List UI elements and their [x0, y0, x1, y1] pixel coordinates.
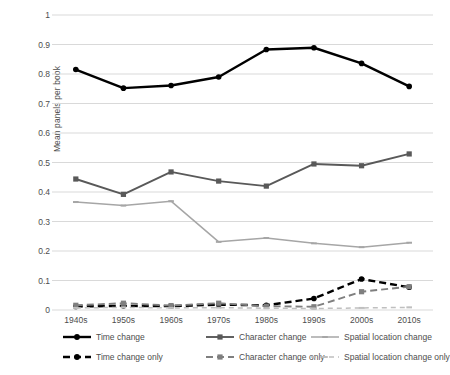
x-tick-label: 1970s: [195, 316, 243, 325]
legend-item[interactable]: Spatial location change: [310, 328, 432, 346]
data-point: [311, 161, 316, 166]
data-point: [264, 184, 269, 189]
x-tick-label: 1940s: [52, 316, 100, 325]
series-spatial-location-change-only: [73, 306, 412, 309]
legend-swatch-square-icon: [205, 332, 235, 342]
data-point: [406, 84, 412, 90]
data-point: [311, 296, 317, 302]
data-point: [359, 61, 365, 67]
data-point: [311, 45, 317, 51]
legend-item[interactable]: Time change: [62, 328, 145, 346]
data-point: [406, 306, 412, 308]
series-line: [76, 201, 409, 247]
x-tick-label: 1980s: [242, 316, 290, 325]
data-point: [168, 307, 174, 309]
data-point: [311, 308, 317, 310]
legend-swatch-line-icon: [310, 332, 340, 342]
data-point: [121, 192, 126, 197]
data-point: [359, 289, 364, 294]
legend-item[interactable]: Character change: [205, 328, 307, 346]
legend-item[interactable]: Time change only: [62, 348, 163, 366]
legend-label: Time change only: [96, 353, 163, 362]
series-character-change-only: [73, 284, 412, 309]
legend-label: Spatial location change only: [344, 353, 450, 362]
x-tick-label: 2010s: [385, 316, 433, 325]
data-point: [73, 67, 79, 73]
data-point: [359, 246, 365, 248]
legend-item[interactable]: Spatial location change only: [310, 348, 450, 366]
data-point: [216, 178, 221, 183]
series-line: [76, 154, 409, 194]
data-point: [121, 301, 126, 306]
data-point: [168, 200, 174, 202]
data-point: [73, 307, 79, 309]
legend-swatch-line-icon: [310, 352, 340, 362]
series-character-change: [73, 151, 412, 197]
data-point: [216, 241, 222, 243]
data-point: [264, 237, 270, 239]
legend-label: Time change: [96, 333, 145, 342]
data-point: [264, 307, 270, 309]
data-point: [407, 284, 412, 289]
data-point: [359, 163, 364, 168]
data-point: [407, 151, 412, 156]
data-point: [168, 169, 173, 174]
x-tick-label: 2000s: [338, 316, 386, 325]
x-tick-label: 1960s: [147, 316, 195, 325]
legend-swatch-square-icon: [205, 352, 235, 362]
data-point: [216, 301, 221, 306]
data-point: [121, 205, 127, 207]
legend-row-only: Time change onlyCharacter change onlySpa…: [0, 348, 437, 366]
legend-label: Character change: [239, 333, 307, 342]
data-point: [359, 276, 365, 282]
caption-sliver: [0, 368, 437, 375]
data-point: [73, 176, 78, 181]
data-point: [311, 242, 317, 244]
legend-swatch-circle-icon: [62, 352, 92, 362]
data-point: [216, 307, 222, 309]
data-point: [121, 85, 127, 91]
series-time-change: [73, 45, 412, 91]
data-point: [359, 307, 365, 309]
x-tick-label: 1950s: [99, 316, 147, 325]
series-spatial-location-change: [73, 200, 412, 248]
legend-item[interactable]: Character change only: [205, 348, 325, 366]
data-point: [121, 306, 127, 308]
data-point: [406, 242, 412, 244]
data-point: [264, 47, 270, 53]
data-point: [216, 74, 222, 80]
legend-label: Spatial location change: [344, 333, 432, 342]
x-tick-label: 1990s: [290, 316, 338, 325]
legend-row-primary: Time changeCharacter changeSpatial locat…: [0, 328, 437, 346]
legend-swatch-circle-icon: [62, 332, 92, 342]
data-point: [168, 83, 174, 89]
plot-area: [0, 0, 437, 330]
chart-legend: Time changeCharacter changeSpatial locat…: [0, 328, 437, 370]
data-point: [73, 201, 79, 203]
series-line: [76, 48, 409, 88]
